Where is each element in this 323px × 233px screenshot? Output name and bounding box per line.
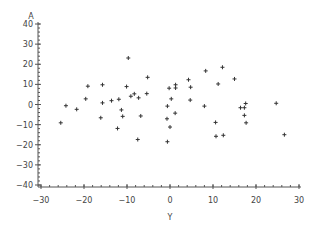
data-point [75,107,79,111]
data-point [84,97,88,101]
data-point [137,96,141,100]
x-tick-label: 20 [251,196,261,205]
data-point [132,92,136,96]
data-point [139,114,143,118]
x-tick-label: −30 [33,196,50,205]
x-tick-label: 0 [167,196,172,205]
data-point [233,77,237,81]
data-points [59,56,287,144]
data-point [220,65,224,69]
data-point [165,117,169,121]
data-point [125,85,129,89]
y-tick-label: 0 [28,101,33,110]
data-point [64,104,68,108]
data-point [216,82,220,86]
data-point [86,84,90,88]
y-tick-label: 40 [23,20,33,29]
ticks: 403020100−10−20−30−40−30−20−100102030 [16,20,304,205]
data-point [145,92,149,96]
data-point [165,140,169,144]
y-tick-label: −30 [16,161,33,170]
y-tick-label: −20 [16,141,33,150]
data-point [167,86,171,90]
data-point [126,56,130,60]
data-point [244,101,248,105]
data-point [146,75,150,79]
data-point [169,97,173,101]
data-point [129,94,133,98]
data-point [204,69,208,73]
y-tick-label: 30 [23,40,33,49]
data-point [165,104,169,108]
data-point [214,134,218,138]
x-tick-label: −10 [119,196,136,205]
y-tick-label: −10 [16,121,33,130]
data-point [214,120,218,124]
data-point [242,113,246,117]
data-point [121,114,125,118]
data-point [188,98,192,102]
x-tick-label: −20 [76,196,93,205]
data-point [110,99,114,103]
x-axis-title: Y [167,213,173,222]
x-tick-label: 30 [294,196,304,205]
data-point [221,133,225,137]
data-point [59,121,63,125]
data-point [173,111,177,115]
data-point [168,125,172,129]
y-tick-label: 10 [23,80,33,89]
data-point [282,133,286,137]
data-point [99,116,103,120]
data-point [100,83,104,87]
y-tick-label: 20 [23,60,33,69]
data-point [242,106,246,110]
data-point [116,126,120,130]
data-point [136,138,140,142]
data-point [186,78,190,82]
data-point [119,108,123,112]
data-point [202,104,206,108]
x-tick-label: 10 [208,196,218,205]
y-tick-label: −40 [16,181,33,190]
data-point [117,97,121,101]
data-point [174,86,178,90]
scatter-chart: A Y 403020100−10−20−30−40−30−20−10010203… [0,0,323,233]
data-point [244,121,248,125]
data-point [274,101,278,105]
data-point [100,101,104,105]
data-point [189,85,193,89]
data-point [239,106,243,110]
